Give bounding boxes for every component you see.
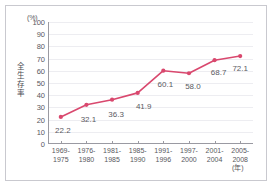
chart-figure: (%) 全生存率 0102030405060708090100 1969-197… — [0, 0, 272, 193]
x-axis-tick-label-line: 1996 — [154, 156, 172, 165]
x-axis-tick-mark — [61, 141, 62, 144]
y-axis-tick-label: 50 — [37, 79, 45, 88]
x-axis-tick-label-line: 1980 — [77, 156, 95, 165]
data-point-label: 60.1 — [158, 80, 174, 89]
x-axis-tick-label-line: 1981- — [103, 147, 121, 156]
x-axis-tick-label-line: 2005- — [231, 147, 249, 156]
data-point-marker — [212, 58, 216, 62]
data-point-marker — [136, 91, 140, 95]
data-point-label: 58.0 — [185, 82, 201, 91]
x-axis-tick-mark — [240, 141, 241, 144]
x-axis-tick-label-line: 1990 — [129, 156, 147, 165]
data-point-marker — [84, 103, 88, 107]
x-axis-tick-label: 1981-1985 — [103, 147, 121, 164]
plot-area: 0102030405060708090100 1969-19751976-198… — [48, 22, 253, 144]
x-axis-tick-label: 1997-2000 — [180, 147, 198, 164]
x-axis-tick-label-line: 1991- — [154, 147, 172, 156]
x-axis-tick-label: 1976-1980 — [77, 147, 95, 164]
data-point-marker — [59, 115, 63, 119]
x-axis-tick-label: 1991-1996 — [154, 147, 172, 164]
x-axis-tick-mark — [189, 141, 190, 144]
y-axis-tick-label: 0 — [41, 140, 45, 149]
y-axis-tick-label: 10 — [37, 127, 45, 136]
data-point-label: 41.9 — [136, 102, 152, 111]
data-point-label: 36.3 — [108, 110, 124, 119]
plot-inner: 0102030405060708090100 1969-19751976-198… — [48, 22, 253, 144]
x-axis-tick-label-line: 2000 — [180, 156, 198, 165]
data-point-marker — [161, 69, 165, 73]
x-axis-tick-label-line: 1985- — [129, 147, 147, 156]
x-axis-tick-label: 1969-1975 — [52, 147, 70, 164]
x-axis-tick-label-line: 1969- — [52, 147, 70, 156]
data-point-label: 22.2 — [55, 126, 71, 135]
x-axis-tick-label-line: 1997- — [180, 147, 198, 156]
y-axis-tick-label: 70 — [37, 54, 45, 63]
x-axis-tick-label-line: 2001- — [206, 147, 224, 156]
x-axis-tick-mark — [86, 141, 87, 144]
y-axis-tick-label: 20 — [37, 115, 45, 124]
y-axis-tick-label: 90 — [37, 30, 45, 39]
x-axis-tick-label-line: 1985 — [103, 156, 121, 165]
data-point-label: 68.7 — [211, 68, 227, 77]
x-axis-unit-label: (年) — [232, 162, 244, 172]
y-axis-tick-label: 40 — [37, 91, 45, 100]
y-axis-tick-label: 30 — [37, 103, 45, 112]
y-axis-tick-label: 80 — [37, 42, 45, 51]
y-axis-tick-label: 100 — [32, 18, 45, 27]
x-axis-tick-label-line: 1975 — [52, 156, 70, 165]
data-point-marker — [187, 71, 191, 75]
data-point-marker — [110, 98, 114, 102]
x-axis-tick-label-line: 1976- — [77, 147, 95, 156]
x-axis-tick-mark — [138, 141, 139, 144]
y-axis-tick-label: 60 — [37, 66, 45, 75]
x-axis-tick-label: 1985-1990 — [129, 147, 147, 164]
data-point-marker — [238, 54, 242, 58]
x-axis-tick-label-line: 2004 — [206, 156, 224, 165]
x-axis-tick-mark — [215, 141, 216, 144]
series-line-chart — [48, 22, 253, 144]
x-axis-tick-mark — [163, 141, 164, 144]
data-point-label: 32.1 — [81, 115, 97, 124]
x-axis-tick-mark — [112, 141, 113, 144]
x-axis-tick-label: 2001-2004 — [206, 147, 224, 164]
y-axis-title: 全生存率 — [15, 62, 26, 98]
data-point-label: 72.1 — [232, 64, 248, 73]
